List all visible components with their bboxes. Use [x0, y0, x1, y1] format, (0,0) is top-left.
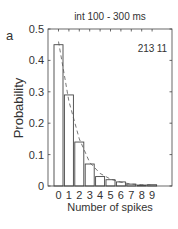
x-tick-label: 8 [139, 189, 145, 201]
y-tick-label: 0.4 [29, 54, 44, 66]
bars [54, 45, 157, 186]
y-tick-label: 0.5 [29, 23, 44, 35]
annotation-count-1: 213 [138, 43, 155, 54]
chart-title: int 100 - 300 ms [74, 11, 146, 22]
probability-histogram: a int 100 - 300 ms 00.10.20.30.40.501234… [0, 0, 178, 229]
bar [75, 142, 84, 186]
bar [96, 177, 105, 186]
x-tick-label: 9 [149, 189, 155, 201]
y-tick-label: 0.3 [29, 86, 44, 98]
bar [137, 185, 146, 186]
x-tick-label: 0 [55, 189, 61, 201]
annotation-count-2: 11 [157, 43, 168, 54]
y-tick-label: 0.1 [29, 149, 44, 161]
x-tick-label: 7 [128, 189, 134, 201]
y-tick-label: 0.2 [29, 117, 44, 129]
x-tick-label: 1 [66, 189, 72, 201]
fit-curve [59, 42, 153, 185]
x-tick-label: 6 [118, 189, 124, 201]
y-tick-label: 0 [38, 180, 44, 192]
bar [85, 164, 94, 186]
x-axis-label: Number of spikes [67, 201, 153, 213]
bar [54, 45, 63, 186]
panel-label: a [6, 28, 14, 43]
x-tick-label: 5 [107, 189, 113, 201]
y-axis-label: Probability [11, 77, 26, 138]
bar [64, 95, 73, 186]
x-tick-label: 2 [76, 189, 82, 201]
x-tick-label: 3 [87, 189, 93, 201]
x-tick-label: 4 [97, 189, 103, 201]
bar [106, 180, 115, 186]
